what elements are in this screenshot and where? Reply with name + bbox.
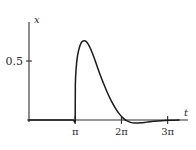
- plot-canvas: π2π3π0.5xt: [0, 0, 196, 150]
- x-tick-label: 2π: [115, 126, 128, 137]
- x-axis-label: t: [184, 107, 189, 118]
- y-tick-label: 0.5: [6, 55, 24, 68]
- x-tick-label: π: [72, 126, 79, 137]
- data-curve: [29, 41, 179, 123]
- x-tick-label: 3π: [161, 126, 174, 137]
- y-axis-label: x: [34, 14, 40, 25]
